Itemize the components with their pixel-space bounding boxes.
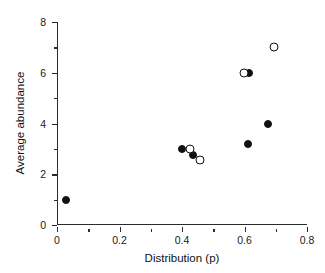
x-tick-major xyxy=(307,227,308,232)
x-tick-major xyxy=(120,227,121,232)
y-axis-ticks xyxy=(50,22,57,225)
x-tick-label: 0.8 xyxy=(300,235,315,246)
y-axis-tick-labels: 02468 xyxy=(22,22,46,225)
y-tick-label: 4 xyxy=(40,118,46,129)
x-tick-major xyxy=(57,227,58,232)
y-tick-label: 2 xyxy=(40,169,46,180)
x-tick-label: 0.4 xyxy=(175,235,190,246)
x-axis-title: Distribution (p) xyxy=(57,252,307,264)
x-tick-major xyxy=(182,227,183,232)
x-tick-label: 0.6 xyxy=(237,235,252,246)
plot-data-area xyxy=(57,22,307,225)
data-point-open xyxy=(270,43,279,52)
y-tick-label: 0 xyxy=(40,220,46,231)
data-point-filled xyxy=(62,196,70,204)
x-tick-major xyxy=(245,227,246,232)
data-point-filled xyxy=(264,120,272,128)
x-tick-minor xyxy=(151,229,152,232)
y-axis-title: Average abundance xyxy=(14,22,26,225)
scatter-plot-figure: 02468 00.20.40.60.8 Distribution (p) Ave… xyxy=(0,0,325,273)
x-axis-ticks xyxy=(57,226,307,232)
x-tick-minor xyxy=(88,229,89,232)
x-tick-minor xyxy=(213,229,214,232)
data-point-open xyxy=(185,144,194,153)
y-tick-label: 8 xyxy=(40,17,46,28)
data-point-open xyxy=(196,156,205,165)
data-point-filled xyxy=(244,140,252,148)
x-tick-label: 0.2 xyxy=(112,235,127,246)
data-point-open xyxy=(239,68,248,77)
x-tick-label: 0 xyxy=(54,235,60,246)
y-tick-label: 6 xyxy=(40,68,46,79)
x-tick-minor xyxy=(276,229,277,232)
x-axis-tick-labels: 00.20.40.60.8 xyxy=(57,235,307,249)
